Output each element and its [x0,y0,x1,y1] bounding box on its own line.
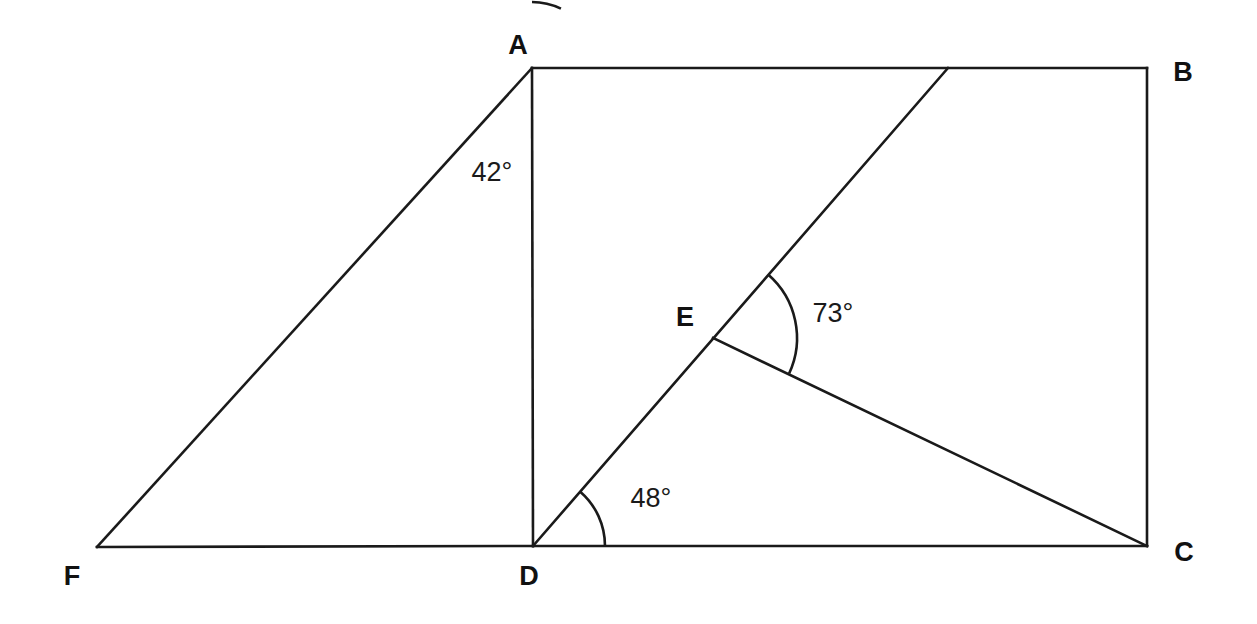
vertex-label-B: B [1173,57,1193,88]
vertex-label-C: C [1174,537,1194,568]
angle-arcs-group [532,2,797,546]
angle-at-A-arc [532,2,561,9]
segment-AF [97,68,532,547]
vertex-label-A: A [508,30,528,61]
vertex-label-F: F [64,561,81,592]
segment-EC [713,338,1147,546]
segment-DG-through-E [533,68,948,546]
geometry-figure-svg [0,0,1257,624]
diagram-canvas: ABCDEF42°48°73° [0,0,1257,624]
vertex-label-E: E [676,302,694,333]
angle-at-D-label: 48° [631,483,672,514]
angle-at-E-arc [768,275,797,374]
vertex-label-D: D [519,561,539,592]
angle-at-A-label: 42° [472,157,513,188]
segments-group [97,68,1147,547]
angle-at-E-label: 73° [813,298,854,329]
angle-at-D-arc [580,492,605,546]
segment-FD [97,546,533,547]
segment-DA [532,68,533,546]
